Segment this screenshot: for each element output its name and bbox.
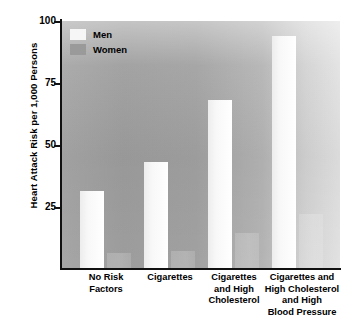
legend-item-men: Men [70, 27, 127, 42]
x-axis-line [60, 268, 341, 270]
x-label-cigarettes-high-cholesterol-high-blood-pressure: Cigarettes and High Cholesterol and High… [256, 272, 348, 318]
bar-men-cigarettes [144, 162, 168, 268]
y-axis-line [60, 19, 62, 270]
bar-women-cigarettes-high-cholesterol-high-blood-pressure [299, 214, 323, 268]
bar-men-cigarettes-high-cholesterol-high-blood-pressure [272, 36, 296, 268]
legend-swatch-men-icon [70, 29, 86, 40]
bar-men-cigarettes-high-cholesterol [208, 100, 232, 268]
legend-swatch-women-icon [70, 44, 86, 55]
y-tick-label-50: 50 [16, 139, 56, 150]
bar-women-no-risk-factors [107, 253, 131, 268]
x-label-line: High Cholesterol [256, 284, 348, 296]
legend-label-men: Men [93, 29, 112, 40]
x-label-line: Blood Pressure [256, 307, 348, 319]
heart-attack-risk-bar-chart: Heart Attack Risk per 1,000 Persons 100 … [0, 0, 356, 331]
bar-women-cigarettes [171, 251, 195, 268]
y-tick-label-100: 100 [16, 15, 56, 26]
y-tick-label-75: 75 [16, 77, 56, 88]
x-label-line: and High [256, 295, 348, 307]
x-label-line: Factors [66, 284, 146, 296]
y-tick-label-25: 25 [16, 201, 56, 212]
legend: Men Women [70, 27, 127, 57]
legend-item-women: Women [70, 42, 127, 57]
bar-women-cigarettes-high-cholesterol [235, 233, 259, 268]
bar-men-no-risk-factors [80, 191, 104, 268]
x-label-line: Cigarettes and [256, 272, 348, 284]
plot-area: Men Women [62, 21, 340, 268]
legend-label-women: Women [93, 44, 127, 55]
x-axis-category-labels: No Risk Factors Cigarettes Cigarettes an… [62, 272, 340, 330]
